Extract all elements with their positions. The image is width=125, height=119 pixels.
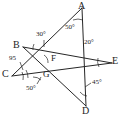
angle-label-D: 45° (92, 79, 102, 86)
vertex-label-E: E (112, 56, 118, 66)
arc-angle-E (98, 58, 99, 67)
geometry-figure: A B C D E F G 50° 30° 95 50° 20° 45° (0, 0, 125, 119)
point-label-G: G (43, 70, 50, 79)
angle-label-C: 95 (9, 55, 16, 62)
vertex-label-B: B (13, 40, 20, 50)
segment-C-E (12, 63, 112, 76)
arc-angle-C (22, 72, 23, 80)
angle-label-E: 20° (84, 39, 94, 46)
leader-lines (20, 40, 91, 87)
angle-label-A: 50° (65, 24, 75, 31)
vertex-label-A: A (78, 1, 85, 11)
point-label-F: F (51, 54, 56, 63)
segment-B-E (23, 47, 112, 63)
leader-45-icon (85, 83, 91, 87)
segment-A-C (12, 8, 82, 76)
vertex-label-D: D (82, 106, 89, 116)
segment-A-D (82, 8, 86, 106)
arc-angle-A (73, 19, 83, 20)
geometry-canvas (0, 0, 125, 119)
angle-label-B: 30° (36, 31, 46, 38)
arc-angle-F (44, 55, 48, 63)
angle-label-G: 50° (26, 85, 36, 92)
vertex-label-C: C (2, 69, 9, 79)
